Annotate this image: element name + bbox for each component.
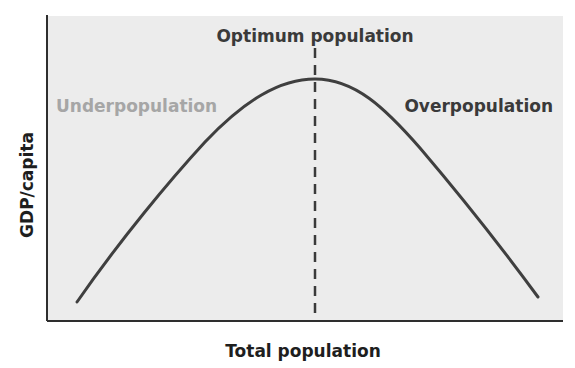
y-axis-label: GDP/capita bbox=[17, 132, 37, 238]
x-axis-label: Total population bbox=[225, 341, 381, 361]
underpopulation-label: Underpopulation bbox=[56, 96, 217, 116]
population-gdp-chart: Optimum population Underpopulation Overp… bbox=[0, 0, 575, 368]
optimum-population-label: Optimum population bbox=[216, 26, 413, 46]
plot-area bbox=[48, 16, 563, 320]
overpopulation-label: Overpopulation bbox=[404, 96, 553, 116]
